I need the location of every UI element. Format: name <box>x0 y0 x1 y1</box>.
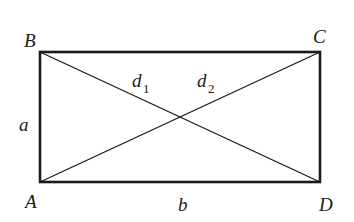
diagonal-label-d2: d 2 <box>197 70 215 96</box>
vertex-label-a: A <box>23 191 37 212</box>
side-label-a: a <box>19 114 29 135</box>
diagonal-label-d1-base: d <box>132 70 142 91</box>
vertex-label-b: B <box>24 30 36 51</box>
side-label-b: b <box>178 194 188 215</box>
diagonal-label-d2-subscript: 2 <box>208 81 215 96</box>
diagonal-label-d1-subscript: 1 <box>143 81 150 96</box>
diagonal-label-d2-base: d <box>197 70 207 91</box>
vertex-label-c: C <box>313 26 326 47</box>
rectangle-diagonals-diagram: B C A D a b d 1 d 2 <box>0 0 354 222</box>
diagonal-label-d1: d 1 <box>132 70 150 96</box>
vertex-label-d: D <box>318 194 333 215</box>
